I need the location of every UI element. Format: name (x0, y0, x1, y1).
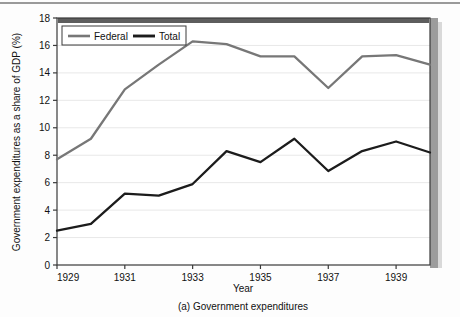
figure-government-expenditures: 024681012141618 192919311933193519371939… (0, 0, 460, 317)
figure-caption: (a) Government expenditures (178, 301, 308, 312)
y-tick-label-6: 6 (44, 177, 50, 188)
scan-artifact-right-shadow-soft (438, 22, 442, 268)
x-tick-label-1933: 1933 (182, 272, 205, 283)
y-axis-title: Government expenditures as a share of GD… (11, 33, 22, 251)
y-tick-label-16: 16 (39, 40, 51, 51)
y-tick-label-8: 8 (44, 150, 50, 161)
y-tick-label-4: 4 (44, 205, 50, 216)
y-tick-label-12: 12 (39, 95, 51, 106)
x-axis-ticks: 192919311933193519371939 (57, 265, 408, 283)
y-tick-label-14: 14 (39, 67, 51, 78)
chart-legend[interactable]: Federal Total (62, 26, 186, 45)
line-chart: 024681012141618 192919311933193519371939… (0, 0, 460, 317)
y-tick-label-0: 0 (44, 260, 50, 271)
y-tick-label-10: 10 (39, 122, 51, 133)
x-tick-label-1939: 1939 (385, 272, 408, 283)
y-axis-ticks: 024681012141618 (39, 13, 57, 271)
x-tick-label-1937: 1937 (317, 272, 340, 283)
scan-artifact-top-bar (58, 18, 429, 23)
x-axis-title: Year (233, 283, 254, 294)
legend-label-total: Total (159, 31, 180, 42)
x-tick-label-1935: 1935 (249, 272, 272, 283)
scan-artifact-right-shadow (430, 18, 438, 268)
x-tick-label-1931: 1931 (114, 272, 137, 283)
y-tick-label-2: 2 (44, 232, 50, 243)
legend-label-federal: Federal (94, 31, 128, 42)
x-tick-label-1929: 1929 (57, 272, 80, 283)
y-tick-label-18: 18 (39, 13, 51, 24)
